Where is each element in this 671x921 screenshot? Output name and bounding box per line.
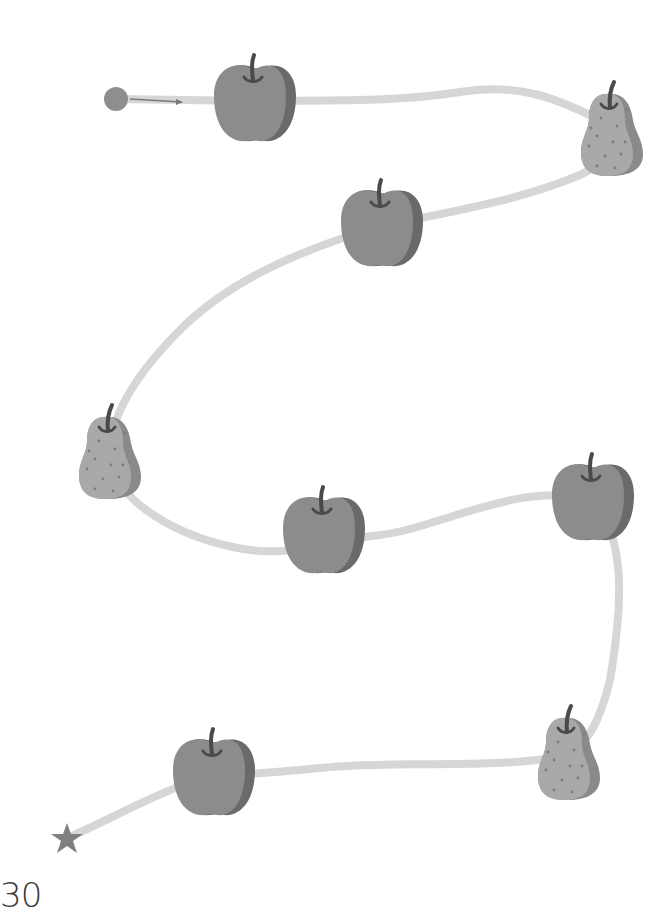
pear-icon	[79, 405, 141, 499]
apple-icon	[341, 180, 423, 266]
star-icon	[51, 823, 83, 853]
start-dot-icon	[104, 87, 128, 111]
apple-icon	[214, 55, 296, 141]
pear-icon	[538, 706, 600, 800]
apple-icon	[552, 454, 634, 540]
page-number: 30	[0, 878, 41, 912]
pear-icon	[581, 82, 643, 176]
apple-icon	[173, 729, 255, 815]
maze-path[interactable]	[67, 89, 619, 838]
fruit-maze: .apple-body { fill: #8c8c8c; } .apple-si…	[0, 0, 671, 921]
apple-icon	[283, 487, 365, 573]
